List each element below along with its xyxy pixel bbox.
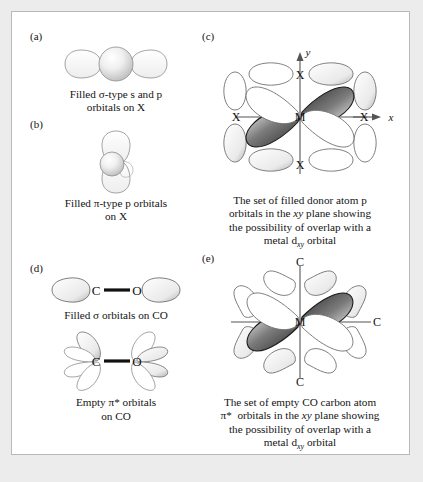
panel-d-pistar-oxygen-label: O xyxy=(132,354,141,369)
panel-d-carbon-label: C xyxy=(92,283,101,298)
panel-a-caption-line-2: orbitals on X xyxy=(30,101,202,114)
panel-c-atom-label-bottom: X xyxy=(296,158,305,172)
co-sigma-orbital-diagram: C O xyxy=(46,274,186,306)
panel-c-center-label: M xyxy=(295,110,306,124)
panel-c-atom-label-left: X xyxy=(232,110,241,124)
panel-d-caption-line-1: Filled σ orbitals on CO xyxy=(30,309,202,322)
panel-c-x-axis-label: x xyxy=(388,111,394,123)
panel-e-atom-label-top: C xyxy=(296,255,304,269)
panel-c-label: (c) xyxy=(202,30,398,42)
donor-p-orbital-set-diagram: X X X X M x y xyxy=(205,42,395,192)
panel-e-atom-label-right: C xyxy=(373,315,381,329)
panel-e-caption-line-4: metal dxy orbital xyxy=(202,436,398,454)
pi-p-orbital-diagram xyxy=(86,130,146,194)
panel-a-caption: Filled σ-type s and p orbitals on X xyxy=(30,88,202,115)
panel-c-atom-label-right: X xyxy=(360,110,369,124)
figure-frame: (a) xyxy=(11,11,410,455)
panel-a-caption-line-1: Filled σ-type s and p xyxy=(30,88,202,101)
panel-e-caption-line-1: The set of empty CO carbon atom xyxy=(202,396,398,409)
panel-b-caption-line-1: Filled π-type p orbitals xyxy=(30,197,202,210)
sigma-s-p-orbital-diagram xyxy=(61,42,171,86)
panel-c: (c) xyxy=(202,30,398,252)
panel-c-caption-line-4: metal dxy orbital xyxy=(202,234,398,252)
panel-e-artwork: C C C M xyxy=(202,252,398,392)
panel-d-label: (d) xyxy=(30,262,202,274)
panel-c-caption-line-1: The set of filled donor atom p xyxy=(202,194,398,207)
panel-c-y-axis-label: y xyxy=(305,46,311,58)
panel-c-atom-label-top: X xyxy=(296,68,305,82)
panel-b-label: (b) xyxy=(30,118,202,130)
panel-a: (a) xyxy=(30,30,202,115)
panel-d-sigma-artwork: C O xyxy=(30,274,202,306)
panel-e-atom-label-bottom: C xyxy=(296,375,304,389)
co-pi-star-orbital-diagram: C O xyxy=(46,330,186,392)
panel-e-caption: The set of empty CO carbon atom π* orbit… xyxy=(202,396,398,454)
panel-d-oxygen-label: O xyxy=(132,283,141,298)
panel-b: (b) Filled π-type p orbitals on X xyxy=(30,118,202,224)
panel-e-caption-line-2: π* orbitals in the xy plane showing xyxy=(202,409,398,422)
panel-c-caption: The set of filled donor atom p orbitals … xyxy=(202,194,398,252)
panel-b-caption: Filled π-type p orbitals on X xyxy=(30,197,202,224)
panel-d-caption2-line-2: on CO xyxy=(30,410,202,423)
panel-c-caption-line-2: orbitals in the xy plane showing xyxy=(202,207,398,220)
figure-grid: (a) xyxy=(12,12,409,454)
panel-d-caption2-line-1: Empty π* orbitals xyxy=(30,396,202,409)
panel-e-center-label: M xyxy=(295,315,306,329)
panel-d-caption-sigma: Filled σ orbitals on CO xyxy=(30,309,202,322)
panel-e: (e) xyxy=(202,252,398,454)
panel-d-pistar-carbon-label: C xyxy=(92,354,101,369)
panel-b-artwork xyxy=(30,130,202,194)
panel-c-artwork: X X X X M x y xyxy=(202,42,398,192)
panel-c-caption-line-3: the possibility of overlap with a xyxy=(202,221,398,234)
panel-e-caption-line-3: the possibility of overlap with a xyxy=(202,423,398,436)
panel-d: (d) C O Filled σ orbitals on CO xyxy=(30,262,202,423)
panel-d-caption-pistar: Empty π* orbitals on CO xyxy=(30,396,202,423)
panel-d-pistar-artwork: C O xyxy=(30,330,202,392)
panel-b-caption-line-2: on X xyxy=(30,210,202,223)
panel-a-artwork xyxy=(30,42,202,86)
panel-a-label: (a) xyxy=(30,30,202,42)
co-pi-star-set-diagram: C C C M xyxy=(205,252,395,392)
